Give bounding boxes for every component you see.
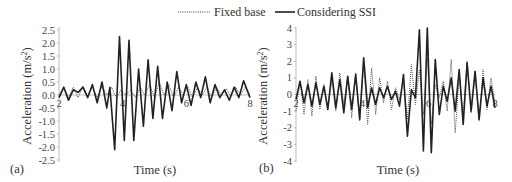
y-tick-label: -3 <box>283 139 292 150</box>
y-tick-label: -0.5 <box>38 103 55 114</box>
series-considering-ssi <box>59 37 250 150</box>
y-tick-label: -2.5 <box>38 155 55 166</box>
y-tick-label: -4 <box>283 156 292 167</box>
legend-ssi-label: Considering SSI <box>297 5 376 19</box>
chart-panel-a: 2.52.01.51.00.50.0-0.5-1.0-1.5-2.0-2.5 2… <box>10 25 253 178</box>
y-tick-label: 0.5 <box>42 77 55 88</box>
y-tick-label: 0.0 <box>42 90 55 101</box>
x-tick-label: 2 <box>56 98 61 109</box>
y-tick-label: -2 <box>283 122 292 133</box>
x-axis-title: Time (s) <box>377 163 419 177</box>
x-tick-labels: 2468 <box>293 98 497 109</box>
y-tick-labels: 2.52.01.51.00.50.0-0.5-1.0-1.5-2.0-2.5 <box>38 25 59 166</box>
y-tick-label: -2.0 <box>38 142 55 153</box>
figure: Fixed base Considering SSI 2.52.01.51.00… <box>0 0 512 182</box>
x-tick-label: 6 <box>184 98 189 109</box>
legend-fixed-base-label: Fixed base <box>214 5 266 19</box>
y-tick-label: 3 <box>287 39 292 50</box>
y-tick-label: 1.0 <box>42 64 55 75</box>
y-tick-label: 4 <box>287 23 293 34</box>
x-axis-title: Time (s) <box>134 163 176 177</box>
legend: Fixed base Considering SSI <box>178 5 376 19</box>
y-tick-label: 1 <box>287 72 292 83</box>
y-tick-label: 2.0 <box>42 38 55 49</box>
y-tick-label: -1.5 <box>38 129 55 140</box>
x-tick-label: 8 <box>247 98 252 109</box>
y-tick-labels: 43210-1-2-3-4 <box>283 23 296 167</box>
y-axis-title: Acceleration (m/s2) <box>256 47 271 144</box>
y-tick-label: 0 <box>287 89 292 100</box>
panel-label-b: (b) <box>259 161 274 175</box>
y-tick-label: -1.0 <box>38 116 55 127</box>
panel-label-a: (a) <box>10 162 24 176</box>
y-tick-label: -1 <box>283 106 292 117</box>
chart-panel-b: 43210-1-2-3-4 2468 Acceleration (m/s2) T… <box>256 23 498 178</box>
y-tick-label: 1.5 <box>42 51 55 62</box>
y-tick-label: 2.5 <box>42 25 55 36</box>
y-axis-title: Acceleration (m/s2) <box>20 47 35 144</box>
y-tick-label: 2 <box>287 56 292 67</box>
